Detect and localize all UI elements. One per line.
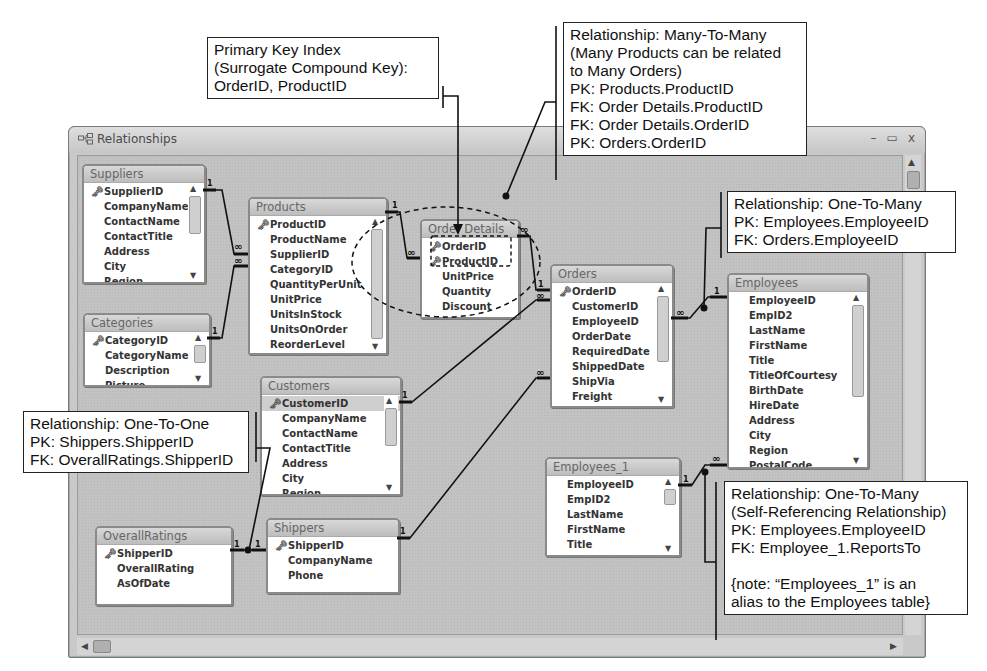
table-field[interactable]: Discount bbox=[422, 299, 518, 314]
close-button[interactable]: x bbox=[908, 131, 915, 145]
table-order-details[interactable]: Order Details 🗝OrderID🗝ProductIDUnitPric… bbox=[420, 219, 520, 319]
table-customers[interactable]: Customers 🗝CustomerIDCompanyNameContactN… bbox=[260, 376, 402, 496]
table-field[interactable]: SupplierID bbox=[250, 247, 386, 262]
table-employees[interactable]: Employees EmployeeIDEmpID2LastNameFirstN… bbox=[727, 273, 869, 469]
table-title[interactable]: Employees_1 bbox=[547, 459, 679, 476]
scroll-up-icon[interactable]: ▲ bbox=[908, 157, 915, 167]
table-field[interactable]: AsOfDate bbox=[97, 576, 231, 591]
table-field[interactable]: City bbox=[729, 428, 867, 443]
table-field[interactable]: OrderDate bbox=[552, 329, 672, 344]
table-field[interactable]: OverallRating bbox=[97, 561, 231, 576]
table-shippers[interactable]: Shippers 🗝ShipperIDCompanyNamePhone bbox=[266, 518, 400, 594]
table-field[interactable]: ContactTitle bbox=[84, 229, 204, 244]
table-field[interactable]: CategoryID bbox=[250, 262, 386, 277]
callout-line: FK: Employee_1.ReportsTo bbox=[731, 539, 961, 557]
table-field[interactable]: CustomerID bbox=[552, 299, 672, 314]
table-field[interactable]: Title bbox=[729, 353, 867, 368]
table-field[interactable]: Phone bbox=[268, 568, 398, 583]
horizontal-scrollbar[interactable]: ◀ ▶ bbox=[77, 638, 903, 655]
table-field[interactable]: 🗝CategoryID bbox=[85, 333, 209, 348]
table-overall-ratings[interactable]: OverallRatings 🗝ShipperIDOverallRatingAs… bbox=[95, 526, 233, 606]
table-field[interactable]: TitleOfCourtesy bbox=[729, 368, 867, 383]
table-field[interactable]: ContactName bbox=[84, 214, 204, 229]
table-field[interactable]: CompanyName bbox=[262, 411, 400, 426]
table-title[interactable]: Shippers bbox=[268, 520, 398, 537]
table-field[interactable]: QuantityPerUnit bbox=[250, 277, 386, 292]
table-orders[interactable]: Orders 🗝OrderIDCustomerIDEmployeeIDOrder… bbox=[550, 264, 674, 408]
table-field[interactable]: UnitsInStock bbox=[250, 307, 386, 322]
table-field[interactable]: EmployeeID bbox=[552, 314, 672, 329]
table-field[interactable]: RequiredDate bbox=[552, 344, 672, 359]
table-field[interactable]: Picture bbox=[85, 378, 209, 387]
table-title[interactable]: Employees bbox=[729, 275, 867, 292]
table-field[interactable]: LastName bbox=[547, 507, 679, 522]
minimize-button[interactable]: – bbox=[871, 131, 877, 145]
table-field[interactable]: CategoryName bbox=[85, 348, 209, 363]
table-field[interactable]: 🗝ShipperID bbox=[97, 546, 231, 561]
table-field[interactable]: Region bbox=[84, 274, 204, 284]
table-field[interactable]: Address bbox=[84, 244, 204, 259]
table-field[interactable]: 🗝SupplierID bbox=[84, 184, 204, 199]
table-field[interactable]: ContactTitle bbox=[262, 441, 400, 456]
table-field[interactable]: City bbox=[84, 259, 204, 274]
table-title[interactable]: OverallRatings bbox=[97, 528, 231, 545]
table-title[interactable]: Customers bbox=[262, 378, 400, 395]
table-field[interactable]: CompanyName bbox=[268, 553, 398, 568]
table-field[interactable]: ContactName bbox=[262, 426, 400, 441]
table-field[interactable]: 🗝OrderID bbox=[422, 239, 518, 254]
table-field[interactable]: PostalCode bbox=[729, 458, 867, 469]
table-field[interactable]: CompanyName bbox=[84, 199, 204, 214]
callout-one-to-one: Relationship: One-To-OnePK: Shippers.Shi… bbox=[23, 411, 249, 473]
table-field[interactable]: Freight bbox=[552, 389, 672, 404]
field-name: ShipperID bbox=[288, 540, 344, 551]
table-employees-1[interactable]: Employees_1 EmployeeIDEmpID2LastNameFirs… bbox=[545, 457, 681, 557]
field-name: ContactTitle bbox=[282, 443, 351, 454]
table-field[interactable]: 🗝ShipperID bbox=[268, 538, 398, 553]
table-products[interactable]: Products 🗝ProductIDProductNameSupplierID… bbox=[248, 197, 388, 355]
scroll-thumb[interactable] bbox=[907, 171, 920, 189]
table-field[interactable]: 🗝ProductID bbox=[250, 217, 386, 232]
maximize-button[interactable]: ▭ bbox=[887, 131, 898, 145]
table-field[interactable]: EmpID2 bbox=[729, 308, 867, 323]
table-field[interactable]: 🗝CustomerID bbox=[262, 396, 400, 411]
table-categories[interactable]: Categories 🗝CategoryIDCategoryNameDescri… bbox=[83, 313, 211, 387]
table-field[interactable]: UnitPrice bbox=[422, 269, 518, 284]
table-field[interactable]: Title bbox=[547, 537, 679, 552]
table-field[interactable]: 🗝ProductID bbox=[422, 254, 518, 269]
table-field[interactable]: TitleOfCourtesy bbox=[547, 552, 679, 557]
scroll-right-icon[interactable]: ▶ bbox=[890, 641, 897, 651]
table-field[interactable]: BirthDate bbox=[729, 383, 867, 398]
table-field[interactable]: LastName bbox=[729, 323, 867, 338]
table-field[interactable]: ShipVia bbox=[552, 374, 672, 389]
table-field[interactable]: ReorderLevel bbox=[250, 337, 386, 352]
table-field[interactable]: EmpID2 bbox=[547, 492, 679, 507]
table-field[interactable]: FirstName bbox=[547, 522, 679, 537]
table-suppliers[interactable]: Suppliers 🗝SupplierIDCompanyNameContactN… bbox=[82, 164, 206, 284]
table-field[interactable]: EmployeeID bbox=[547, 477, 679, 492]
table-field[interactable]: FirstName bbox=[729, 338, 867, 353]
table-field[interactable]: ShippedDate bbox=[552, 359, 672, 374]
table-field[interactable]: HireDate bbox=[729, 398, 867, 413]
table-field[interactable]: ProductName bbox=[250, 232, 386, 247]
table-field[interactable]: UnitsOnOrder bbox=[250, 322, 386, 337]
table-title[interactable]: Orders bbox=[552, 266, 672, 283]
table-field[interactable]: City bbox=[262, 471, 400, 486]
callout-line: PK: Shippers.ShipperID bbox=[30, 433, 242, 451]
scroll-thumb-h[interactable] bbox=[93, 640, 111, 653]
scroll-left-icon[interactable]: ◀ bbox=[81, 641, 88, 651]
table-title[interactable]: Suppliers bbox=[84, 166, 204, 183]
table-field[interactable]: Address bbox=[262, 456, 400, 471]
table-title[interactable]: Categories bbox=[85, 315, 209, 332]
table-field[interactable]: Quantity bbox=[422, 284, 518, 299]
table-field[interactable]: Address bbox=[729, 413, 867, 428]
table-field[interactable]: UnitPrice bbox=[250, 292, 386, 307]
table-title[interactable]: Products bbox=[250, 199, 386, 216]
table-field[interactable]: Description bbox=[85, 363, 209, 378]
table-field[interactable]: Region bbox=[262, 486, 400, 496]
table-field[interactable]: 🗝OrderID bbox=[552, 284, 672, 299]
field-name: Quantity bbox=[442, 286, 491, 297]
table-field[interactable]: Region bbox=[729, 443, 867, 458]
table-title[interactable]: Order Details bbox=[422, 221, 518, 238]
table-field[interactable]: EmployeeID bbox=[729, 293, 867, 308]
table-field[interactable]: ShipName bbox=[552, 404, 672, 408]
